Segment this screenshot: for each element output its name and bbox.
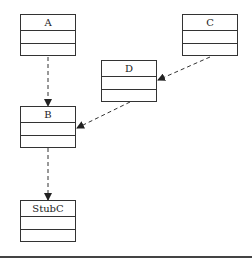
edge-c-to-d — [158, 57, 210, 80]
class-name: C — [183, 15, 237, 31]
class-operations — [102, 90, 156, 102]
class-name: StubC — [21, 201, 75, 217]
class-name: B — [21, 107, 75, 123]
class-operations — [21, 44, 75, 56]
class-box-stubc[interactable]: StubC — [20, 200, 76, 242]
class-operations — [21, 230, 75, 242]
class-attributes — [21, 123, 75, 136]
class-name: A — [21, 15, 75, 31]
class-box-b[interactable]: B — [20, 106, 76, 148]
class-attributes — [102, 77, 156, 90]
class-name: D — [102, 61, 156, 77]
class-attributes — [21, 31, 75, 44]
class-box-c[interactable]: C — [182, 14, 238, 56]
class-operations — [183, 44, 237, 56]
class-attributes — [21, 217, 75, 230]
class-attributes — [183, 31, 237, 44]
class-box-d[interactable]: D — [101, 60, 157, 102]
class-operations — [21, 136, 75, 148]
class-box-a[interactable]: A — [20, 14, 76, 56]
edge-d-to-b — [77, 102, 130, 128]
